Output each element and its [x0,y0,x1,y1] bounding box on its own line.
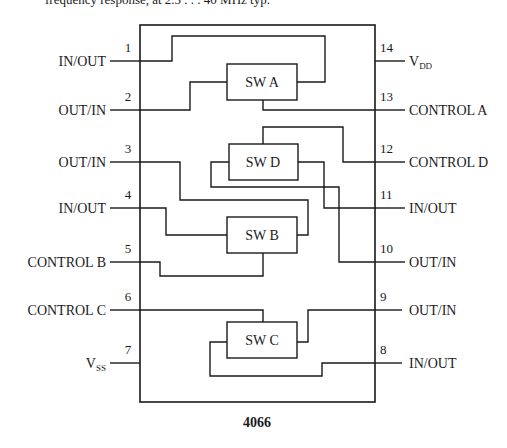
pin-number-6: 6 [125,289,132,304]
pin-label-13: CONTROL A [409,103,488,118]
pin-number-9: 9 [380,289,387,304]
pin-number-2: 2 [125,89,132,104]
pin-label-9: OUT/IN [409,303,456,318]
pin-number-4: 4 [125,187,132,202]
pin-number-7: 7 [125,342,132,357]
pin-label-1: IN/OUT [59,54,107,69]
pin-label-11: IN/OUT [409,201,457,216]
right-pin-leads [375,61,405,363]
pin-number-3: 3 [125,141,132,156]
pin-label-8: IN/OUT [409,356,457,371]
pin-label-6: CONTROL C [28,303,106,318]
part-number: 4066 [243,415,271,430]
pin-number-5: 5 [125,241,132,256]
pin-label-5: CONTROL B [28,255,106,270]
pin-label-4: IN/OUT [59,201,107,216]
switch-a-label: SW A [245,75,279,90]
pin-number-12: 12 [380,141,393,156]
pin-number-8: 8 [380,342,387,357]
switch-d-label: SW D [246,155,280,170]
switch-b-label: SW B [245,228,279,243]
pin-number-1: 1 [125,40,132,55]
pin-label-3: OUT/IN [59,155,106,170]
switch-c-label: SW C [245,333,279,348]
pin-number-11: 11 [380,187,393,202]
left-pin-leads [110,61,140,363]
pin-number-13: 13 [380,89,393,104]
ic-4066-pinout-diagram: frequency response, at 2.5 . . . 40 MHz … [0,0,507,448]
pin-number-14: 14 [380,40,394,55]
pin-label-12: CONTROL D [409,155,488,170]
caption-fragment: frequency response, at 2.5 . . . 40 MHz … [45,0,270,7]
pin-label-10: OUT/IN [409,255,456,270]
pin-number-10: 10 [380,241,393,256]
pin-label-14: VDD [409,54,433,71]
pin-label-2: OUT/IN [59,103,106,118]
pin-label-7: VSS [86,356,106,373]
